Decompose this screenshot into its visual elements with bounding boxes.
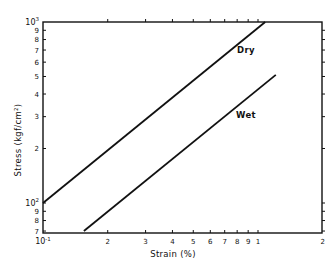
series-line-dry (43, 22, 265, 203)
x-tick-label: 5 (191, 238, 195, 246)
x-tick-label: 2 (105, 238, 109, 246)
y-tick-label: 2 (35, 145, 39, 153)
series-line-wet (84, 75, 276, 231)
plot-frame (43, 22, 322, 233)
axis-tick-labels: 10-1234567891278910223456789103 (25, 16, 325, 246)
y-tick-label: 102 (25, 197, 39, 208)
stress-strain-chart: 10-1234567891278910223456789103 DryWet S… (0, 0, 335, 270)
series-label-wet: Wet (236, 110, 256, 120)
x-tick-label: 6 (208, 238, 213, 246)
y-tick-label: 8 (35, 36, 39, 44)
series-label-dry: Dry (237, 45, 255, 55)
y-tick-label: 9 (35, 27, 39, 35)
y-tick-label: 5 (35, 73, 39, 81)
x-tick-label: 1 (256, 238, 260, 246)
y-tick-label: 103 (25, 16, 39, 27)
y-tick-label: 6 (35, 59, 40, 67)
x-tick-label: 4 (170, 238, 175, 246)
y-tick-label: 7 (35, 228, 39, 236)
axis-ticks (43, 19, 325, 233)
x-tick-label: 3 (143, 238, 147, 246)
x-tick-label: 10-1 (35, 236, 51, 246)
x-tick-label: 8 (235, 238, 239, 246)
series-labels: DryWet (236, 45, 256, 120)
y-tick-label: 7 (35, 47, 39, 55)
y-tick-label: 4 (35, 91, 40, 99)
y-tick-label: 3 (35, 113, 39, 121)
x-tick-label: 7 (222, 238, 226, 246)
y-axis-label: Stress (kgf/cm²) (13, 104, 23, 177)
y-tick-label: 9 (35, 208, 39, 216)
x-tick-label: 2 (320, 238, 324, 246)
x-axis-label: Strain (%) (150, 249, 196, 259)
y-tick-label: 8 (35, 217, 39, 225)
x-tick-label: 9 (246, 238, 250, 246)
